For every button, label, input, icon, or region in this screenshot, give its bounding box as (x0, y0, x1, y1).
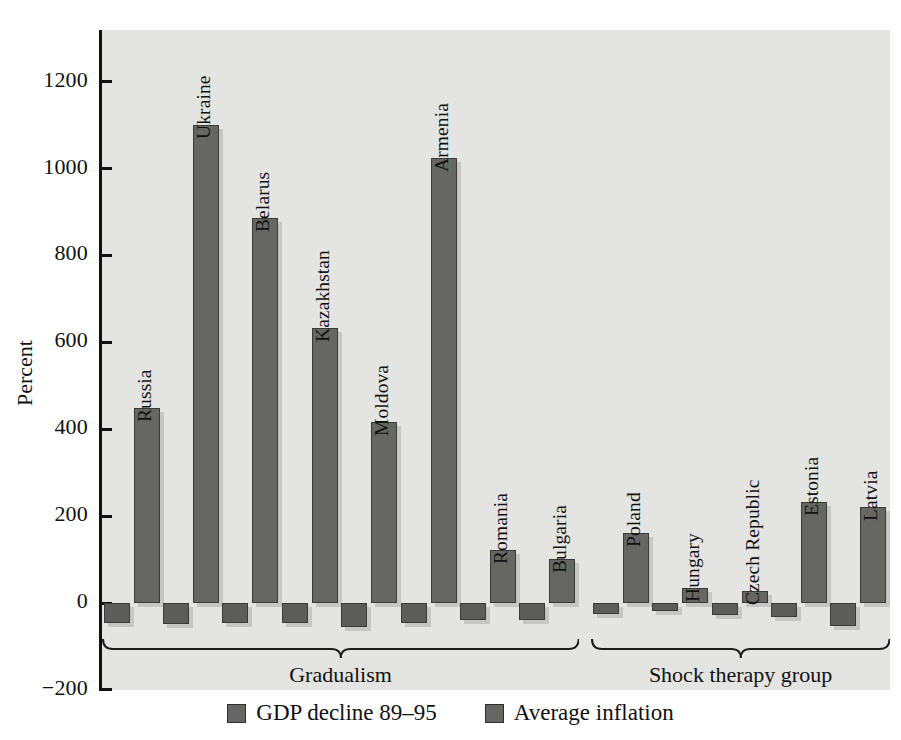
bar-gdp-decline-armenia (401, 603, 427, 623)
bar-average-inflation-moldova (371, 422, 397, 603)
legend-label-gdp-decline: GDP decline 89–95 (256, 700, 437, 726)
y-tick-1200 (99, 80, 112, 83)
y-axis-line (99, 30, 102, 691)
bar-gdp-decline-czech-republic (712, 603, 738, 615)
category-label-romania: Romania (490, 493, 512, 564)
y-tick-800 (99, 254, 112, 257)
legend-swatch-average-inflation (485, 704, 504, 723)
bar-gdp-decline-russia (104, 603, 130, 623)
y-tick-label--200: −200 (20, 677, 88, 699)
category-label-estonia: Estonia (801, 457, 823, 516)
y-tick-400 (99, 428, 112, 431)
bar-average-inflation-kazakhstan (312, 328, 338, 603)
legend-item-average-inflation: Average inflation (485, 700, 674, 726)
brace-shock-therapy-group (591, 638, 891, 660)
y-tick-label-0: 0 (20, 590, 88, 612)
bar-gdp-decline-latvia (830, 603, 856, 626)
category-label-russia: Russia (134, 370, 156, 423)
y-tick-label-1000: 1000 (20, 156, 88, 178)
bar-gdp-decline-poland (593, 603, 619, 614)
bar-gdp-decline-kazakhstan (282, 603, 308, 623)
bar-gdp-decline-hungary (652, 603, 678, 611)
bar-average-inflation-estonia (801, 502, 827, 603)
bar-gdp-decline-bulgaria (519, 603, 545, 620)
bar-average-inflation-latvia (860, 507, 886, 603)
y-axis-label: Percent (12, 308, 38, 438)
category-label-belarus: Belarus (252, 171, 274, 231)
y-tick-600 (99, 341, 112, 344)
bar-average-inflation-russia (134, 408, 160, 603)
bar-average-inflation-ukraine (193, 125, 219, 603)
y-tick-label-1200: 1200 (20, 69, 88, 91)
legend-label-average-inflation: Average inflation (514, 700, 674, 726)
y-tick-1000 (99, 167, 112, 170)
chart-figure: 120010008006004002000−200 Percent Russia… (0, 0, 901, 740)
legend-swatch-gdp-decline (227, 704, 246, 723)
category-label-kazakhstan: Kazakhstan (312, 250, 334, 342)
category-label-czech-republic: Czech Republic (742, 479, 764, 604)
brace-label-gradualism: Gradualism (102, 662, 580, 688)
category-label-hungary: Hungary (682, 533, 704, 602)
y-tick-label-200: 200 (20, 503, 88, 525)
bar-gdp-decline-moldova (341, 603, 367, 627)
category-label-ukraine: Ukraine (193, 75, 215, 139)
bar-gdp-decline-ukraine (163, 603, 189, 624)
chart-legend: GDP decline 89–95 Average inflation (0, 700, 901, 726)
brace-label-shock-therapy-group: Shock therapy group (591, 662, 891, 688)
category-label-moldova: Moldova (371, 365, 393, 436)
brace-gradualism (102, 638, 580, 660)
y-tick-200 (99, 515, 112, 518)
bar-gdp-decline-estonia (771, 603, 797, 617)
bar-average-inflation-armenia (431, 158, 457, 603)
legend-item-gdp-decline: GDP decline 89–95 (227, 700, 437, 726)
bar-gdp-decline-belarus (222, 603, 248, 623)
category-label-poland: Poland (623, 492, 645, 547)
y-tick--200 (99, 688, 112, 691)
y-tick-label-800: 800 (20, 242, 88, 264)
category-label-bulgaria: Bulgaria (549, 505, 571, 573)
bar-gdp-decline-romania (460, 603, 486, 620)
bar-average-inflation-belarus (252, 218, 278, 603)
category-label-latvia: Latvia (860, 471, 882, 521)
category-label-armenia: Armenia (431, 103, 453, 172)
